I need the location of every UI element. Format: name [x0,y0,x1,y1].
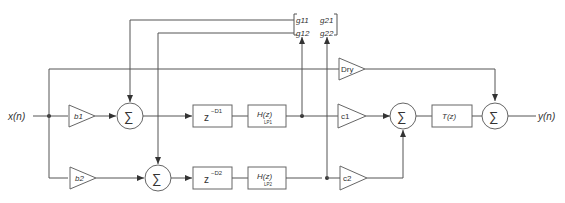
gain-c1-label: c1 [341,112,350,121]
gain-dry-label: Dry [341,65,353,74]
sum-symbol-3: ∑ [397,109,406,124]
delay-d1-base: z [204,112,209,123]
sum-symbol-2: ∑ [152,171,161,186]
gain-c2-label: c2 [343,174,352,183]
matrix-g21: g21 [320,16,333,25]
filter-h1-sub: LP1 [264,120,273,125]
filter-t-label: T(z) [442,112,457,121]
matrix-g12: g12 [296,29,310,38]
filter-h1-label: H(z) [257,110,272,119]
sum-symbol-1: ∑ [124,109,133,124]
gain-b2-label: b2 [75,174,84,183]
delay-d1-exp: −D1 [211,108,223,114]
gain-b1-label: b1 [74,112,83,121]
delay-d2-base: z [204,174,209,185]
filter-h2-label: H(z) [257,172,272,181]
output-label: y(n) [537,111,555,122]
sum-symbol-4: ∑ [489,109,498,124]
matrix-g11: g11 [296,16,309,25]
diagram-canvas: x(n) y(n) b1 b2 c1 c2 Dry ∑ ∑ ∑ ∑ z −D1 … [0,0,565,203]
delay-d2-exp: −D2 [211,170,223,176]
input-label: x(n) [7,111,25,122]
filter-h2-sub: LP2 [264,182,273,187]
matrix-g22: g22 [320,29,334,38]
